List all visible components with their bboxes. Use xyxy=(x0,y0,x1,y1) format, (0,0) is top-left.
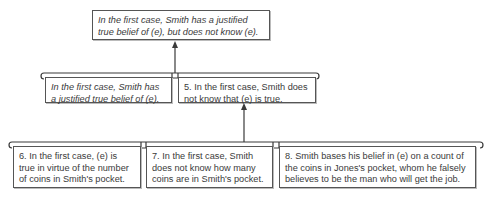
premise-8-box: 8. Smith bases his belief in (e) on a co… xyxy=(279,146,476,188)
arrowhead-icon xyxy=(172,41,178,48)
premise-6-box: 6. In the first case, (e) is true in vir… xyxy=(13,146,141,188)
premise-text: 6. In the first case, (e) is true in vir… xyxy=(19,151,129,184)
premise-5-box: 5. In the first case, Smith does not kno… xyxy=(178,77,316,103)
premise-text: 5. In the first case, Smith does not kno… xyxy=(184,82,308,104)
conclusion-text: In the first case, Smith has a justified… xyxy=(98,15,258,37)
premise-text: 7. In the first case, Smith does not kno… xyxy=(152,151,264,184)
premise-text: 8. Smith bases his belief in (e) on a co… xyxy=(285,151,466,184)
premise-justified-true-belief-box: In the first case, Smith has a justified… xyxy=(45,77,172,103)
premise-7-box: 7. In the first case, Smith does not kno… xyxy=(146,146,273,188)
premise-text: In the first case, Smith has a justified… xyxy=(51,82,159,104)
conclusion-box: In the first case, Smith has a justified… xyxy=(92,10,270,40)
